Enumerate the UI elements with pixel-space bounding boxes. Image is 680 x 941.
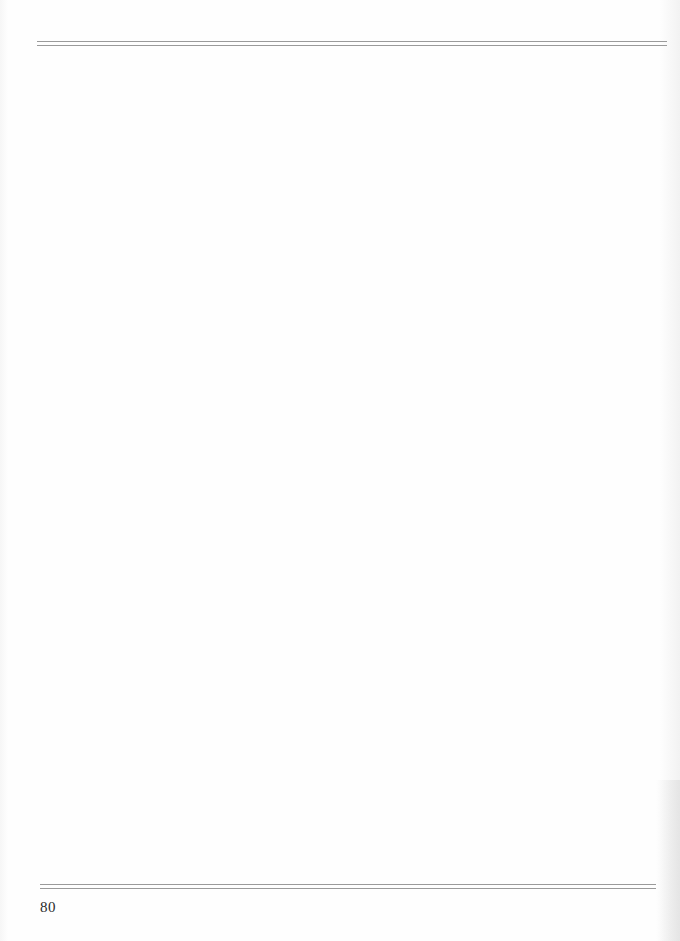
header-double-rule [37,41,667,46]
page-number: 80 [40,899,56,916]
scan-edge-shadow [656,780,680,941]
footer-double-rule [40,884,656,889]
document-page: 80 [0,0,680,941]
